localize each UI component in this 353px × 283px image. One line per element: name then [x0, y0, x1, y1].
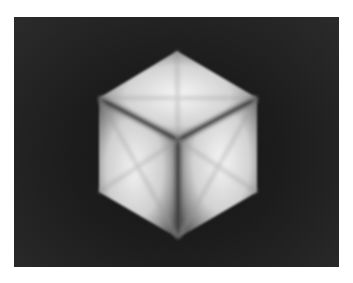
cube-illustration [0, 0, 353, 283]
